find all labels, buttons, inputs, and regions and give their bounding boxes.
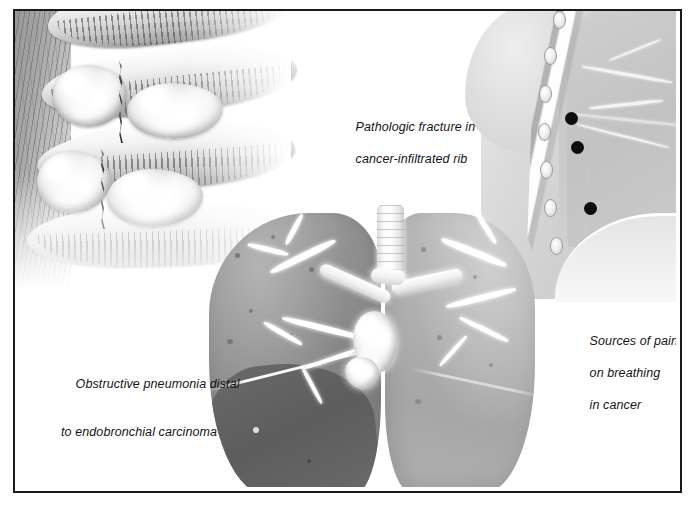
rib-cross-section [539, 85, 552, 103]
left-lung [385, 213, 535, 487]
pain-source-dot-3 [584, 202, 597, 215]
lung-speck [415, 399, 421, 404]
lung-vessel [581, 65, 672, 84]
caption-line: in cancer [590, 398, 642, 412]
rib-tumor-mass-left-upper [53, 65, 127, 127]
medical-illustration-figure: Pathologic fracture in cancer-infiltrate… [0, 0, 691, 521]
caption-obstructive-pneumonia: Obstructive pneumonia distal to endobron… [47, 360, 240, 472]
figure-border-frame: Pathologic fracture in cancer-infiltrate… [13, 9, 682, 493]
lung-vessel [589, 99, 663, 109]
lung-speck [227, 339, 233, 344]
caption-line: cancer-infiltrated rib [356, 152, 468, 166]
rib-cross-section [540, 161, 553, 179]
caption-line: Pathologic fracture in [356, 120, 476, 134]
caption-line: to endobronchial carcinoma [47, 424, 240, 440]
lung-speck [473, 275, 477, 279]
rib-cross-section [544, 199, 557, 217]
rib-cross-section [544, 47, 557, 65]
pain-source-dot-1 [565, 112, 578, 125]
lung-speck [253, 427, 259, 433]
lung-vessel [609, 39, 662, 62]
rib-cross-section [538, 123, 551, 141]
rib-cross-section [550, 237, 563, 255]
rib-tumor-mass-left-lower [37, 151, 111, 213]
caption-line: Sources of pain [590, 334, 676, 348]
lung-speck [489, 363, 493, 367]
endobronchial-carcinoma-satellite [345, 357, 379, 389]
lung-speck [309, 267, 314, 272]
lung-speck [235, 253, 240, 258]
lung-speck [249, 309, 253, 313]
caption-line: Obstructive pneumonia distal [76, 377, 240, 391]
lung-speck [421, 247, 426, 252]
lung-panel [205, 191, 535, 487]
rib-cross-section [553, 11, 566, 29]
pain-source-dot-2 [571, 141, 584, 154]
lung-speck [271, 235, 275, 239]
lung-vessel [576, 123, 670, 148]
lung-speck [437, 335, 442, 340]
caption-sources-of-pain: Sources of pain on breathing in cancer [561, 317, 676, 429]
lung-speck [307, 459, 311, 463]
caption-line: on breathing [590, 366, 661, 380]
caption-pathologic-fracture: Pathologic fracture in cancer-infiltrate… [327, 103, 475, 183]
oblique-fissure-left [410, 367, 535, 398]
illustration-plate: Pathologic fracture in cancer-infiltrate… [15, 11, 676, 487]
